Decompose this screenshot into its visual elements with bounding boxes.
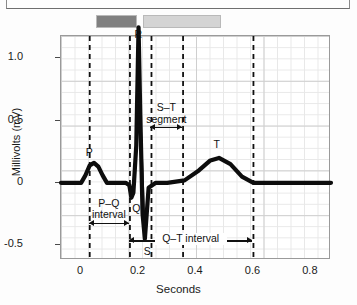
wave-label-t: T	[214, 139, 220, 149]
wave-label-s: S	[144, 246, 151, 256]
annotation-pq-interval	[89, 222, 129, 225]
annotation-arrowhead	[129, 237, 134, 243]
wave-label-r: R	[135, 29, 143, 39]
x-tick-label: 0.4	[175, 265, 215, 276]
x-tick-label: 0.6	[232, 265, 272, 276]
annotation-line: segment	[106, 114, 226, 126]
y-tick-label: 0.5	[0, 114, 23, 125]
x-tick-label: 0.8	[290, 265, 330, 276]
x-tick-label: 0.2	[118, 265, 158, 276]
annotation-label-st-segment: S–Tsegment	[106, 102, 226, 125]
y-tick-label: -0.5	[0, 238, 23, 249]
ecg-chart: Millivolts (mV) Seconds 1.00.50-0.5 00.2…	[0, 0, 357, 305]
annotation-line: Q–T interval	[155, 233, 227, 245]
annotation-label-qt-interval: Q–T interval	[155, 233, 227, 245]
annotation-line: interval	[49, 209, 169, 221]
wave-label-p: P	[86, 147, 93, 157]
annotation-arrowhead	[247, 237, 252, 243]
y-tick-label: 1.0	[0, 51, 23, 62]
annotation-arrow-line	[89, 223, 129, 224]
x-tick-label: 0	[60, 265, 100, 276]
annotation-line: S–T	[106, 102, 226, 114]
x-axis-label: Seconds	[0, 283, 357, 295]
annotation-label-pq-interval: P–Qinterval	[49, 198, 169, 221]
annotation-st-segment	[150, 126, 182, 129]
plot-area	[60, 35, 330, 259]
y-tick-label: 0	[0, 176, 23, 187]
ecg-waveform-svg	[60, 35, 332, 261]
